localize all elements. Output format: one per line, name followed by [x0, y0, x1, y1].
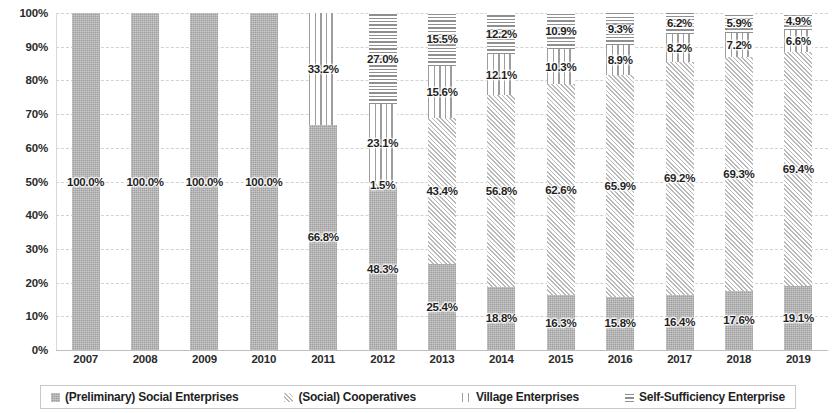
- x-axis-tick-label: 2015: [531, 353, 590, 365]
- legend-item[interactable]: Village Enterprises: [462, 390, 579, 404]
- bar-segment[interactable]: [784, 30, 812, 52]
- bar-segment[interactable]: [666, 295, 694, 350]
- legend-label: Village Enterprises: [476, 390, 579, 404]
- bar-segment[interactable]: [547, 13, 575, 50]
- bar-group[interactable]: [725, 13, 753, 350]
- bar-segment[interactable]: [369, 187, 397, 350]
- x-axis-tick-label: 2019: [769, 353, 828, 365]
- legend-swatch-icon: [284, 393, 293, 402]
- bar-segment[interactable]: [487, 13, 515, 54]
- bar-segment[interactable]: [369, 104, 397, 182]
- bar-segment[interactable]: [487, 95, 515, 286]
- bar-segment[interactable]: [725, 33, 753, 57]
- gridline: [56, 350, 828, 351]
- bar-segment[interactable]: [606, 297, 634, 350]
- bar-segment[interactable]: [666, 13, 694, 34]
- bar-group[interactable]: [309, 13, 337, 350]
- bar-segment[interactable]: [547, 84, 575, 295]
- legend-swatch-icon: [625, 393, 634, 402]
- bar-segment[interactable]: [309, 13, 337, 125]
- x-axis-tick-label: 2007: [56, 353, 115, 365]
- x-axis-tick-label: 2011: [294, 353, 353, 365]
- bar-group[interactable]: [190, 13, 218, 350]
- bar-segment[interactable]: [606, 45, 634, 75]
- legend-swatch-icon: [51, 393, 60, 402]
- bar-group[interactable]: [487, 13, 515, 350]
- plot-area: 100.0%100.0%100.0%100.0%66.8%33.2%48.3%1…: [56, 13, 828, 350]
- bar-group[interactable]: [784, 13, 812, 350]
- bar-segment[interactable]: [547, 49, 575, 84]
- x-axis-tick-label: 2010: [234, 353, 293, 365]
- bar-group[interactable]: [428, 13, 456, 350]
- legend-label: (Social) Cooperatives: [298, 390, 415, 404]
- x-axis-tick-label: 2013: [412, 353, 471, 365]
- y-axis-tick-label: 80%: [0, 74, 48, 86]
- bar-segment[interactable]: [725, 57, 753, 291]
- bar-segment[interactable]: [190, 13, 218, 350]
- bar-segment[interactable]: [309, 125, 337, 350]
- stacked-bar-chart: 0%10%20%30%40%50%60%70%80%90%100% 100.0%…: [0, 0, 835, 413]
- x-axis-tick-label: 2012: [353, 353, 412, 365]
- bar-segment[interactable]: [606, 13, 634, 44]
- bar-segment[interactable]: [428, 66, 456, 119]
- bar-group[interactable]: [606, 13, 634, 350]
- x-axis: 2007200820092010201120122013201420152016…: [56, 353, 828, 373]
- x-axis-tick-label: 2008: [115, 353, 174, 365]
- bar-segment[interactable]: [784, 286, 812, 350]
- bar-segment[interactable]: [487, 54, 515, 95]
- legend-item[interactable]: Self-Sufficiency Enterprise: [625, 390, 785, 404]
- y-axis-tick-label: 30%: [0, 243, 48, 255]
- bar-group[interactable]: [72, 13, 100, 350]
- y-axis-tick-label: 40%: [0, 209, 48, 221]
- y-axis-tick-label: 10%: [0, 310, 48, 322]
- bar-segment[interactable]: [250, 13, 278, 350]
- bar-group[interactable]: [250, 13, 278, 350]
- bar-segment[interactable]: [487, 287, 515, 350]
- y-axis-tick-label: 60%: [0, 142, 48, 154]
- bar-segment[interactable]: [428, 264, 456, 350]
- legend-label: (Preliminary) Social Enterprises: [65, 390, 238, 404]
- bar-segment[interactable]: [547, 295, 575, 350]
- bar-segment[interactable]: [428, 118, 456, 264]
- bar-segment[interactable]: [666, 34, 694, 62]
- bar-segment[interactable]: [369, 13, 397, 104]
- y-axis-tick-label: 90%: [0, 41, 48, 53]
- bar-segment[interactable]: [131, 13, 159, 350]
- y-axis-tick-label: 0%: [0, 344, 48, 356]
- y-axis-tick-label: 50%: [0, 176, 48, 188]
- bar-group[interactable]: [666, 13, 694, 350]
- bar-segment[interactable]: [428, 13, 456, 65]
- x-axis-tick-label: 2017: [650, 353, 709, 365]
- bar-segment[interactable]: [72, 13, 100, 350]
- x-axis-tick-label: 2014: [472, 353, 531, 365]
- bar-segment[interactable]: [725, 13, 753, 33]
- legend-swatch-icon: [462, 393, 471, 402]
- y-axis-tick-label: 70%: [0, 108, 48, 120]
- y-axis-tick-label: 20%: [0, 277, 48, 289]
- y-axis-tick-label: 100%: [0, 7, 48, 19]
- x-axis-tick-label: 2016: [590, 353, 649, 365]
- x-axis-tick-label: 2018: [709, 353, 768, 365]
- bar-segment[interactable]: [666, 62, 694, 295]
- x-axis-tick-label: 2009: [175, 353, 234, 365]
- legend-item[interactable]: (Preliminary) Social Enterprises: [51, 390, 238, 404]
- bar-segment[interactable]: [784, 52, 812, 286]
- bar-group[interactable]: [547, 13, 575, 350]
- legend-label: Self-Sufficiency Enterprise: [639, 390, 785, 404]
- bar-segment[interactable]: [369, 182, 397, 187]
- legend: (Preliminary) Social Enterprises(Social)…: [40, 385, 796, 409]
- legend-item[interactable]: (Social) Cooperatives: [284, 390, 415, 404]
- bar-segment[interactable]: [725, 291, 753, 350]
- bar-group[interactable]: [369, 13, 397, 350]
- bar-group[interactable]: [131, 13, 159, 350]
- bar-segment[interactable]: [606, 75, 634, 297]
- y-axis: 0%10%20%30%40%50%60%70%80%90%100%: [0, 13, 50, 350]
- bar-segment[interactable]: [784, 13, 812, 30]
